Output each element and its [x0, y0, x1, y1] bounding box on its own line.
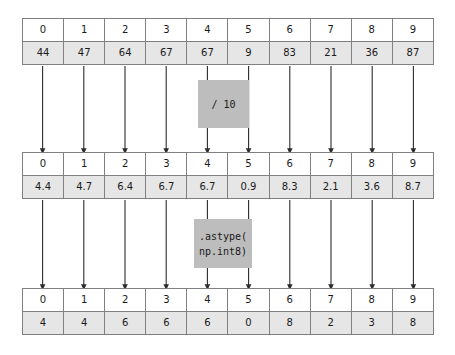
index-cell: 5 [228, 19, 269, 41]
value-cell: 6 [187, 312, 228, 334]
value-cell: 2 [311, 312, 352, 334]
index-cell: 6 [270, 153, 311, 175]
index-cell: 4 [187, 289, 228, 311]
value-cell: 36 [352, 42, 393, 64]
casted-array: 0 1 2 3 4 5 6 7 8 9 4 4 6 6 6 0 8 2 3 8 [22, 288, 434, 335]
index-cell: 5 [228, 153, 269, 175]
index-cell: 7 [311, 153, 352, 175]
value-cell: 4.7 [64, 176, 105, 198]
value-cell: 21 [311, 42, 352, 64]
operation-label-line2: np.int8) [199, 244, 247, 259]
operation-label-line1: .astype( [199, 229, 247, 244]
index-cell: 9 [393, 289, 433, 311]
index-cell: 9 [393, 153, 433, 175]
index-cell: 7 [311, 19, 352, 41]
index-cell: 0 [23, 153, 64, 175]
value-cell: 6.7 [187, 176, 228, 198]
value-cell: 64 [105, 42, 146, 64]
index-cell: 8 [352, 289, 393, 311]
index-cell: 3 [146, 289, 187, 311]
value-cell: 4 [23, 312, 64, 334]
value-cell: 3 [352, 312, 393, 334]
index-cell: 0 [23, 289, 64, 311]
index-cell: 1 [64, 289, 105, 311]
value-cell: 6.4 [105, 176, 146, 198]
value-cell: 6.7 [146, 176, 187, 198]
value-cell: 87 [393, 42, 433, 64]
value-row: 4.4 4.7 6.4 6.7 6.7 0.9 8.3 2.1 3.6 8.7 [23, 175, 433, 198]
divided-array: 0 1 2 3 4 5 6 7 8 9 4.4 4.7 6.4 6.7 6.7 … [22, 152, 434, 199]
value-cell: 83 [270, 42, 311, 64]
index-cell: 2 [105, 153, 146, 175]
index-cell: 5 [228, 289, 269, 311]
diagram-canvas: 0 1 2 3 4 5 6 7 8 9 44 47 64 67 67 9 83 … [0, 0, 455, 355]
index-cell: 9 [393, 19, 433, 41]
index-row: 0 1 2 3 4 5 6 7 8 9 [23, 153, 433, 175]
value-cell: 0.9 [228, 176, 269, 198]
value-cell: 6 [146, 312, 187, 334]
index-cell: 2 [105, 19, 146, 41]
astype-operation: .astype( np.int8) [194, 219, 252, 268]
divide-operation: / 10 [198, 80, 249, 128]
value-cell: 6 [105, 312, 146, 334]
index-cell: 1 [64, 153, 105, 175]
index-cell: 2 [105, 289, 146, 311]
value-cell: 8.3 [270, 176, 311, 198]
index-cell: 1 [64, 19, 105, 41]
index-cell: 8 [352, 19, 393, 41]
value-row: 44 47 64 67 67 9 83 21 36 87 [23, 41, 433, 64]
value-cell: 2.1 [311, 176, 352, 198]
value-cell: 67 [146, 42, 187, 64]
index-cell: 7 [311, 289, 352, 311]
value-row: 4 4 6 6 6 0 8 2 3 8 [23, 311, 433, 334]
index-cell: 4 [187, 19, 228, 41]
index-cell: 0 [23, 19, 64, 41]
source-array: 0 1 2 3 4 5 6 7 8 9 44 47 64 67 67 9 83 … [22, 18, 434, 65]
value-cell: 4.4 [23, 176, 64, 198]
value-cell: 67 [187, 42, 228, 64]
value-cell: 4 [64, 312, 105, 334]
value-cell: 0 [228, 312, 269, 334]
index-cell: 3 [146, 19, 187, 41]
index-row: 0 1 2 3 4 5 6 7 8 9 [23, 19, 433, 41]
index-cell: 3 [146, 153, 187, 175]
value-cell: 3.6 [352, 176, 393, 198]
value-cell: 47 [64, 42, 105, 64]
index-cell: 4 [187, 153, 228, 175]
index-row: 0 1 2 3 4 5 6 7 8 9 [23, 289, 433, 311]
value-cell: 8.7 [393, 176, 433, 198]
value-cell: 44 [23, 42, 64, 64]
value-cell: 8 [270, 312, 311, 334]
index-cell: 8 [352, 153, 393, 175]
index-cell: 6 [270, 19, 311, 41]
operation-label: / 10 [211, 97, 235, 112]
value-cell: 8 [393, 312, 433, 334]
value-cell: 9 [228, 42, 269, 64]
index-cell: 6 [270, 289, 311, 311]
